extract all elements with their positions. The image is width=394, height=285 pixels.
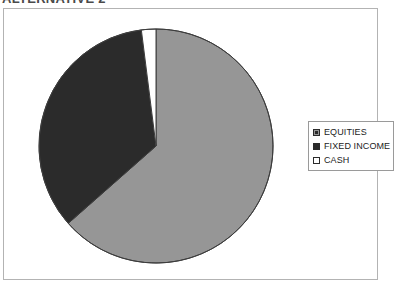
legend-label-cash: CASH bbox=[324, 155, 349, 165]
legend-label-fixed-income: FIXED INCOME bbox=[324, 141, 390, 151]
pie-slice-group bbox=[39, 29, 273, 263]
legend-item-equities[interactable]: EQUITIES bbox=[313, 126, 390, 138]
legend-swatch-cash-icon bbox=[313, 157, 320, 164]
legend-label-equities: EQUITIES bbox=[324, 127, 367, 137]
page-title-clip: ALTERNATIVE 2 bbox=[0, 0, 383, 8]
legend-swatch-fixed-income-icon bbox=[313, 143, 320, 150]
legend-swatch-equities-icon bbox=[313, 129, 320, 136]
chart-frame: EQUITIES FIXED INCOME CASH bbox=[3, 8, 378, 280]
legend-item-cash[interactable]: CASH bbox=[313, 154, 390, 166]
pie-chart bbox=[4, 9, 304, 281]
pie-chart-plot-area bbox=[4, 9, 304, 281]
page-title: ALTERNATIVE 2 bbox=[2, 0, 106, 6]
chart-legend: EQUITIES FIXED INCOME CASH bbox=[308, 121, 394, 171]
legend-item-fixed-income[interactable]: FIXED INCOME bbox=[313, 140, 390, 152]
